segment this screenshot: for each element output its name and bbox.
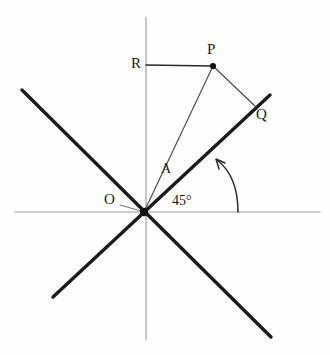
point-marker-origin [140,208,148,216]
geometry-diagram: P Q R O A 45° [0,0,330,355]
point-marker-p [210,63,216,69]
label-segment-a: A [161,162,171,176]
label-angle-measure: 45° [172,194,192,208]
label-point-p: P [207,42,215,57]
segment-pq [213,66,256,107]
label-point-q: Q [256,107,267,122]
rotation-arc [217,160,238,212]
segment-op [144,66,213,212]
segment-rp [146,65,213,66]
diagram-canvas [0,0,330,355]
label-origin: O [104,192,115,207]
label-point-r: R [131,56,141,71]
